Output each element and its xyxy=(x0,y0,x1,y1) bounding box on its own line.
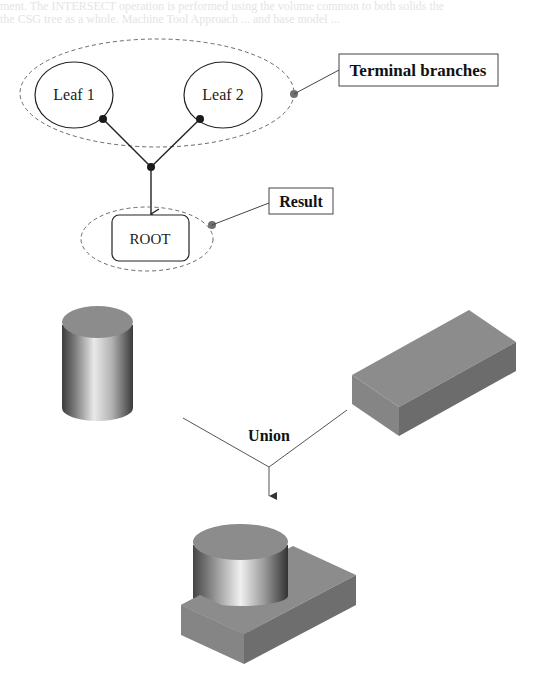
csg-tree-diagram: Leaf 1 Leaf 2 Terminal branches ROOT Res… xyxy=(0,0,545,699)
edge-leaf1-to-join xyxy=(103,119,151,167)
leaf-2-connector-dot xyxy=(196,115,204,123)
edge-leaf2-to-join xyxy=(151,119,200,167)
result-label: Result xyxy=(279,193,323,210)
root-label: ROOT xyxy=(130,231,171,247)
union-result-solid xyxy=(181,524,356,664)
leaf-2-label: Leaf 2 xyxy=(202,86,243,103)
cylinder-solid xyxy=(62,306,133,421)
terminal-branches-label: Terminal branches xyxy=(350,61,487,80)
box-solid xyxy=(352,310,516,436)
terminal-callout-leader xyxy=(294,70,339,94)
union-label: Union xyxy=(248,427,290,444)
result-callout-leader xyxy=(212,203,269,225)
leaf-1-label: Leaf 1 xyxy=(53,86,94,103)
leaf-1-connector-dot xyxy=(99,115,107,123)
